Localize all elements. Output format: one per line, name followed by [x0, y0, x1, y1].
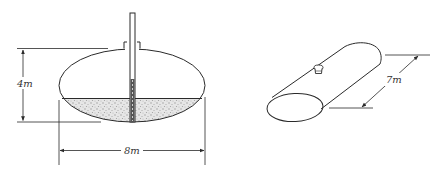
tank-bottom-edge [321, 64, 380, 109]
fill-cap [314, 65, 323, 74]
tank-diagram: 4m 8m 7m [0, 0, 447, 184]
height-label: 4m [16, 78, 33, 89]
tank-front-end [266, 92, 323, 123]
tank-back-end [345, 43, 381, 64]
length-label: 7m [386, 74, 402, 85]
iso-view: 7m [266, 43, 430, 123]
tank-top-edge [272, 47, 345, 98]
length-dimension: 7m [329, 55, 430, 108]
width-label: 8m [124, 145, 140, 156]
front-view: 4m 8m [14, 13, 210, 165]
